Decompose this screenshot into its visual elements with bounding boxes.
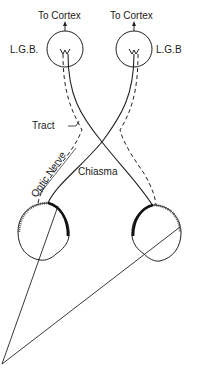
left-retina-temporal: [19, 203, 47, 232]
right-retina-temporal: [154, 205, 180, 232]
label-to-cortex-right: To Cortex: [110, 10, 153, 21]
label-chiasma: Chiasma: [78, 166, 118, 177]
ray-to-left-eye: [2, 206, 58, 364]
visual-pathway-diagram: To Cortex To Cortex L.G.B. L.G.B Tract O…: [0, 0, 201, 371]
label-lgb-left: L.G.B.: [10, 44, 38, 55]
label-optic-nerve: Optic Nerve: [29, 149, 69, 199]
arrow-up-icon-left: [63, 21, 67, 31]
ray-to-right-eye: [2, 227, 180, 364]
label-to-cortex-left: To Cortex: [38, 10, 81, 21]
arrow-up-icon-right: [132, 21, 136, 31]
synapse-icon-right: [129, 49, 139, 54]
right-retina-nasal: [133, 205, 153, 236]
label-lgb-right: L.G.B: [156, 44, 182, 55]
label-tract: Tract: [32, 120, 55, 131]
uncrossed-fiber-right: [120, 54, 156, 205]
left-retina-nasal: [48, 203, 68, 236]
right-eye: [132, 205, 181, 261]
left-eye: [18, 203, 69, 260]
synapse-icon-left: [60, 49, 70, 54]
